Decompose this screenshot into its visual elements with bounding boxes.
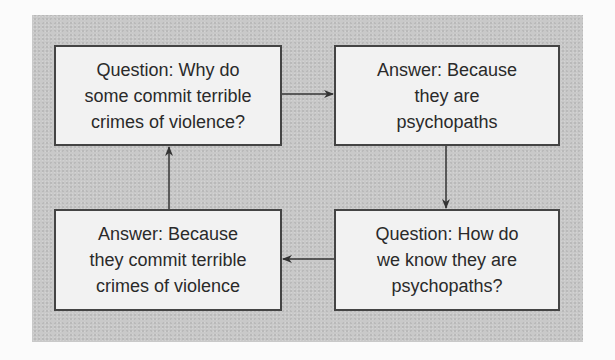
node-text: Question: How do we know they are psycho… xyxy=(375,221,518,299)
node-question-how-know: Question: How do we know they are psycho… xyxy=(334,209,560,311)
node-answer-commit-crimes: Answer: Because they commit terrible cri… xyxy=(54,209,282,311)
node-text: Answer: Because they are psychopaths xyxy=(377,57,517,135)
node-question-why-violence: Question: Why do some commit terrible cr… xyxy=(54,45,282,146)
node-answer-psychopaths: Answer: Because they are psychopaths xyxy=(334,45,560,146)
node-text: Question: Why do some commit terrible cr… xyxy=(84,57,251,135)
node-text: Answer: Because they commit terrible cri… xyxy=(89,221,246,299)
